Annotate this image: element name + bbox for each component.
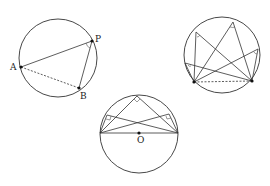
- chord-dashed: [194, 81, 252, 82]
- label-p: P: [95, 34, 101, 44]
- line: [194, 22, 233, 82]
- circle-1: [19, 19, 97, 97]
- right-angle-mark-top: [134, 99, 140, 102]
- point-left: [192, 80, 195, 83]
- point-a: [19, 65, 22, 68]
- point-right: [250, 79, 253, 82]
- line: [185, 63, 194, 82]
- label-o: O: [137, 135, 144, 145]
- label-b: B: [80, 91, 87, 101]
- diagram-1: A P B: [9, 19, 101, 101]
- line: [107, 115, 178, 133]
- line: [252, 49, 258, 81]
- angle-mark: [197, 35, 200, 37]
- line: [194, 49, 258, 82]
- angle-mark: [230, 27, 235, 28]
- point-p: [90, 39, 93, 42]
- line: [233, 22, 252, 81]
- diagram-2: [184, 17, 260, 93]
- angle-mark: [254, 52, 257, 54]
- angle-mark-p: [86, 43, 90, 48]
- angle-mark: [188, 65, 191, 66]
- figure-canvas: A P B O: [0, 0, 270, 186]
- label-a: A: [9, 62, 17, 72]
- line: [194, 32, 196, 82]
- point-b: [77, 86, 80, 89]
- segment-ap: [21, 41, 92, 67]
- diagram-3: O: [100, 95, 178, 173]
- line: [100, 114, 169, 133]
